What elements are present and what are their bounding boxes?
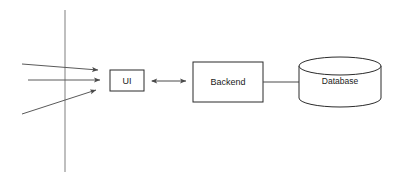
ui-node-label: UI	[123, 76, 132, 86]
backend-node-label: Backend	[210, 77, 245, 87]
diagram-canvas: UI Backend Database	[0, 0, 398, 180]
inbound-arrow-1	[22, 64, 98, 70]
database-node-label: Database	[322, 76, 359, 86]
architecture-diagram: UI Backend Database	[0, 0, 398, 180]
inbound-arrow-3	[22, 90, 96, 114]
